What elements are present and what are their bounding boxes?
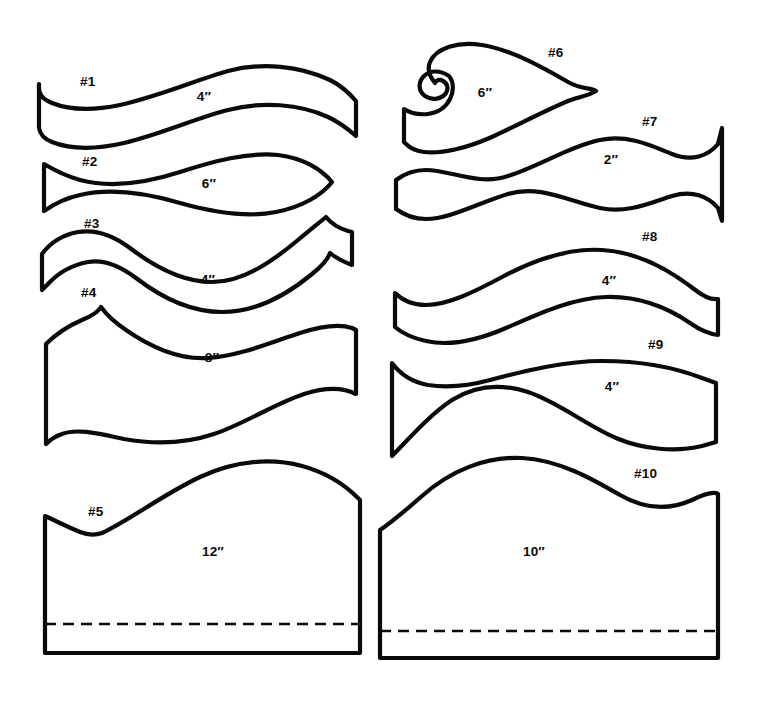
pattern-number-label-5: #5 <box>88 504 104 519</box>
pattern-number-label-9: #9 <box>648 337 663 352</box>
pattern-template-diagram: #14″#26″#34″#48″#512″#66″#72″#84″#94″#10… <box>0 0 760 702</box>
pattern-dimension-label-3: 4″ <box>201 272 216 287</box>
pattern-number-label-4: #4 <box>81 285 97 300</box>
pattern-outline-10 <box>380 458 718 658</box>
pattern-outline-9 <box>392 361 716 456</box>
pattern-number-label-8: #8 <box>642 229 658 244</box>
pattern-dimension-label-2: 6″ <box>202 176 217 191</box>
pattern-number-label-1: #1 <box>80 74 96 89</box>
pattern-outline-4 <box>46 307 356 444</box>
pattern-number-label-3: #3 <box>84 216 100 231</box>
pattern-number-label-10: #10 <box>634 466 657 481</box>
pattern-dimension-label-1: 4″ <box>197 89 212 104</box>
pattern-dimension-label-9: 4″ <box>605 379 620 394</box>
pattern-number-label-7: #7 <box>642 114 657 129</box>
pattern-dimension-label-10: 10″ <box>523 544 545 559</box>
pattern-number-label-2: #2 <box>82 154 97 169</box>
pattern-dimension-label-8: 4″ <box>602 273 617 288</box>
pattern-number-label-6: #6 <box>548 45 564 60</box>
pattern-dimension-label-7: 2″ <box>604 152 619 167</box>
shapes-layer <box>39 44 722 658</box>
pattern-dimension-label-5: 12″ <box>202 544 224 559</box>
pattern-outline-8 <box>395 250 718 343</box>
pattern-dimension-label-6: 6″ <box>478 85 493 100</box>
pattern-sheet: #14″#26″#34″#48″#512″#66″#72″#84″#94″#10… <box>0 0 760 702</box>
pattern-outline-6 <box>404 44 596 152</box>
pattern-dimension-label-4: 8″ <box>205 350 220 365</box>
